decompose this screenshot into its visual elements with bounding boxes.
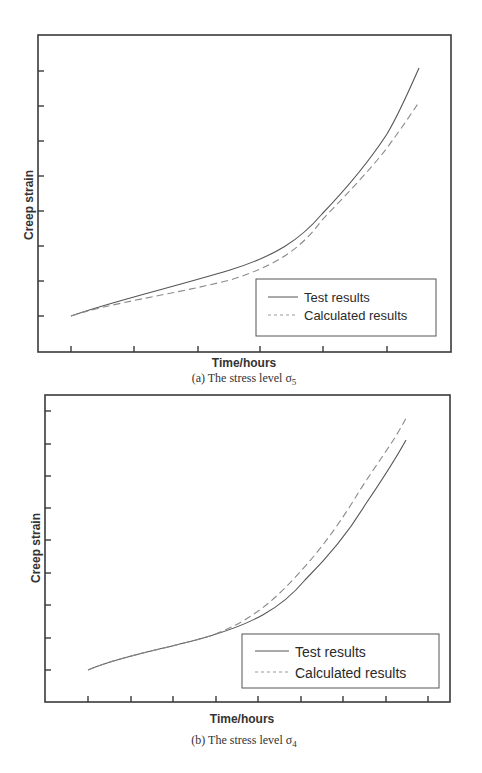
caption-b: (b) The stress level σ4 <box>191 733 297 749</box>
calculated-results-line-b <box>88 418 406 670</box>
legend-label-calc-b: Calculated results <box>295 665 406 681</box>
x-axis-label-b: Time/hours <box>210 712 275 726</box>
x-ticks-b <box>88 696 428 702</box>
y-axis-label-b: Creep strain <box>29 513 43 583</box>
chart-panel-b: Test results Calculated results Creep st… <box>0 0 482 773</box>
legend-label-test-b: Test results <box>295 644 366 660</box>
legend-b: Test results Calculated results <box>242 634 439 688</box>
chart-b-svg: Test results Calculated results Creep st… <box>0 0 482 773</box>
y-ticks-b <box>45 411 51 670</box>
